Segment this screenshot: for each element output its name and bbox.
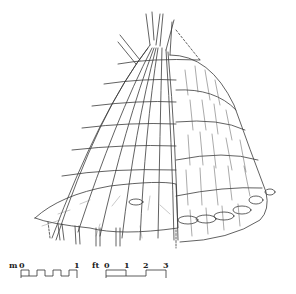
- floor: [35, 182, 178, 238]
- imperial-tick-1: 1: [124, 261, 130, 269]
- metric-tick-1: 1: [74, 261, 80, 269]
- imperial-tick-3: 3: [163, 261, 169, 269]
- metric-tick-0: 0: [19, 261, 25, 269]
- metric-unit-label: m: [9, 261, 17, 269]
- hut-illustration: [0, 0, 296, 294]
- ground-stakes: [48, 222, 176, 248]
- thatch-cover: [170, 55, 267, 242]
- imperial-tick-2: 2: [143, 261, 149, 269]
- metric-scale-bar: [21, 270, 77, 278]
- pole-tips: [118, 12, 200, 64]
- imperial-scale-bar: [106, 270, 166, 278]
- frame-poles: [52, 45, 178, 240]
- anchor-stones: [178, 189, 275, 224]
- imperial-unit-label: ft: [92, 261, 99, 269]
- imperial-tick-0: 0: [104, 261, 110, 269]
